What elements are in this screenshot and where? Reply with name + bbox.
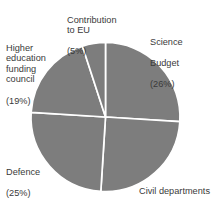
pie-label-defence: Defence (25%) [6,156,68,202]
pie-label-science-budget-name: Science [150,37,216,48]
pie-label-defence-percent: (25%) [6,188,68,199]
pie-label-defence-name: Defence [6,167,68,178]
pie-label-contribution-to-eu: Contribution to EU (5%) [67,4,129,68]
pie-label-civil-departments-name: Civil departments [139,186,221,197]
pie-label-higher-education-funding-council-name: Higher education funding council [6,43,70,85]
pie-label-contribution-to-eu-name: Contribution to EU [67,15,129,36]
pie-label-contribution-to-eu-percent: (5%) [67,46,129,57]
pie-label-science-budget: Science Budget (26%) [150,26,216,100]
pie-chart-figure: Contribution to EU (5%) Science Budget (… [0,0,221,202]
pie-label-civil-departments: Civil departments (25%) [139,175,221,202]
pie-label-higher-education-funding-council-percent: (19%) [6,96,70,107]
pie-label-science-budget-name2: Budget [150,58,216,69]
pie-label-science-budget-percent: (26%) [150,79,216,90]
pie-label-higher-education-funding-council: Higher education funding council (19%) [6,32,70,117]
